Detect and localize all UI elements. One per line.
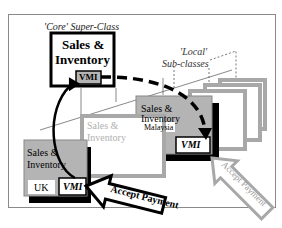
- uk-vmi-module: VMI: [63, 182, 82, 192]
- core-caption: 'Core' Super-Class: [44, 22, 119, 32]
- malaysia-country: Malaysia: [144, 124, 173, 132]
- core-title-line2: Inventory: [55, 53, 110, 66]
- core-title-line1: Sales &: [62, 38, 104, 51]
- core-vmi-module: VMI: [79, 73, 98, 82]
- uk-title-line2: Inventory: [27, 160, 66, 170]
- faded-title-line1: Sales &: [87, 121, 118, 131]
- local-caption-line2: Sub-classes: [162, 59, 209, 69]
- local-caption-line1: 'Local': [180, 47, 207, 57]
- uk-title-line1: Sales &: [27, 148, 58, 158]
- faded-title-line2: Inventory: [87, 133, 126, 143]
- uk-country: UK: [34, 183, 48, 193]
- malaysia-vmi-module: VMI: [181, 140, 200, 150]
